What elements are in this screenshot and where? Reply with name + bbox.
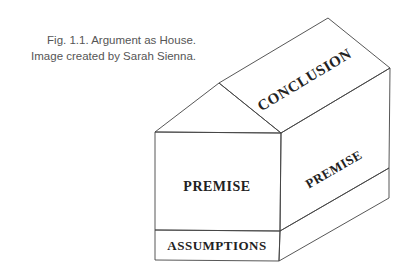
argument-house-diagram: CONCLUSION PREMISE PREMISE ASSUMPTIONS: [0, 0, 413, 274]
roof-label: CONCLUSION: [255, 45, 355, 114]
side-wall-label: PREMISE: [303, 147, 365, 191]
foundation-label: ASSUMPTIONS: [167, 238, 266, 253]
foundation-side: [279, 168, 389, 261]
front-wall-label: PREMISE: [183, 179, 250, 194]
